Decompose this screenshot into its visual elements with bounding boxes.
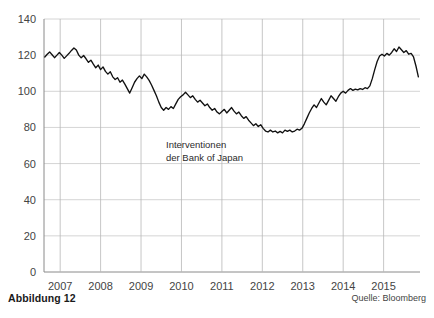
figure-caption: Abbildung 12 [8, 292, 76, 304]
y-tick-label: 120 [18, 49, 36, 61]
y-axis-tick-labels: 020406080100120140 [18, 13, 36, 278]
annotation-line-1: Interventionen [166, 139, 226, 150]
y-tick-label: 60 [24, 158, 36, 170]
y-tick-label: 80 [24, 121, 36, 133]
y-tick-label: 140 [18, 13, 36, 25]
line-chart: 020406080100120140 200720082009201020112… [0, 0, 434, 290]
figure-footer: Abbildung 12 Quelle: Bloomberg [0, 284, 434, 318]
source-note: Quelle: Bloomberg [351, 293, 426, 303]
annotation-line-2: der Bank of Japan [166, 152, 243, 163]
y-tick-label: 0 [30, 266, 36, 278]
y-tick-label: 20 [24, 230, 36, 242]
figure-container: 020406080100120140 200720082009201020112… [0, 0, 434, 318]
y-tick-label: 40 [24, 194, 36, 206]
y-tick-label: 100 [18, 85, 36, 97]
